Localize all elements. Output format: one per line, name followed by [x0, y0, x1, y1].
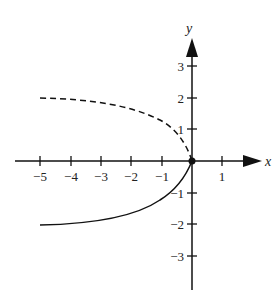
- lower-solid-curve: [40, 161, 192, 225]
- x-tick-label: 1: [219, 169, 226, 184]
- y-axis-arrow-icon: [186, 38, 198, 57]
- origin-point: [189, 158, 196, 165]
- y-tick-label: 3: [178, 59, 185, 74]
- y-tick-label: 1: [178, 122, 185, 137]
- x-tick-label: −1: [155, 169, 169, 184]
- x-tick-label: −4: [64, 169, 78, 184]
- y-tick-label: −3: [170, 249, 184, 264]
- y-axis-label: y: [184, 21, 193, 36]
- graph: x y −5 −4 −3 −2 −1 1 3 2 1 −1 −2 −3: [0, 0, 279, 307]
- x-tick-label: −2: [124, 169, 138, 184]
- y-tick-label: −1: [170, 186, 184, 201]
- x-tick-labels: −5 −4 −3 −2 −1 1: [33, 169, 225, 184]
- x-tick-label: −3: [94, 169, 108, 184]
- x-tick-label: −5: [33, 169, 47, 184]
- axes: x y: [15, 21, 272, 290]
- upper-dashed-curve: [40, 98, 192, 161]
- y-tick-label: −2: [170, 217, 184, 232]
- y-tick-label: 2: [178, 91, 185, 106]
- x-axis-label: x: [264, 154, 272, 169]
- x-axis-arrow-icon: [243, 155, 262, 167]
